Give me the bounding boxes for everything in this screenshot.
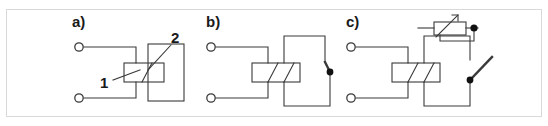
callout-label-1: 1: [100, 74, 108, 91]
panel-label-c: c): [346, 13, 359, 30]
callout-label-2: 2: [171, 29, 179, 46]
panel-label-b: b): [206, 13, 220, 30]
c-switch-node: [467, 77, 474, 84]
a-terminal-top: [75, 43, 83, 51]
b-terminal-bottom: [207, 94, 215, 102]
b-terminal-top: [207, 43, 215, 51]
c-terminal-bottom: [347, 94, 355, 102]
c-terminal-top: [347, 43, 355, 51]
a-terminal-bottom: [75, 94, 83, 102]
relay-diagram-figure: a) b) c) 1 2: [0, 0, 548, 126]
c-adjustable-node: [470, 24, 477, 31]
b-switch-node: [327, 69, 334, 76]
panel-label-a: a): [72, 13, 85, 30]
relay-diagram-canvas: a) b) c) 1 2: [0, 0, 548, 126]
